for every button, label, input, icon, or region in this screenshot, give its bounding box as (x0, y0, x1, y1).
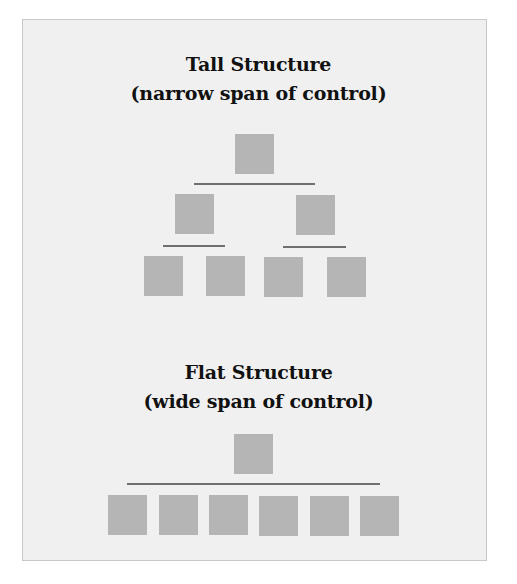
flat-bottom-box-5 (310, 496, 349, 536)
flat-bottom-box-1 (108, 495, 147, 535)
flat-structure-subtitle: (wide span of control) (0, 387, 517, 416)
flat-bottom-box-6 (360, 496, 399, 536)
tall-connector-level1 (194, 183, 315, 185)
flat-bottom-box-4 (259, 496, 298, 536)
flat-connector (127, 483, 380, 485)
tall-bottom-box-1 (144, 256, 183, 296)
tall-connector-left (163, 245, 225, 247)
tall-bottom-box-4 (327, 257, 366, 297)
tall-structure-subtitle: (narrow span of control) (0, 79, 517, 108)
tall-structure-title: Tall Structure (0, 50, 517, 79)
flat-structure-title: Flat Structure (0, 358, 517, 387)
tall-top-box (235, 134, 274, 174)
tall-mid-box-right (296, 195, 335, 235)
tall-bottom-box-2 (206, 256, 245, 296)
flat-bottom-box-3 (209, 495, 248, 535)
tall-mid-box-left (175, 194, 214, 234)
flat-bottom-box-2 (159, 495, 198, 535)
tall-bottom-box-3 (264, 257, 303, 297)
flat-top-box (234, 434, 273, 474)
tall-connector-right (283, 246, 346, 248)
